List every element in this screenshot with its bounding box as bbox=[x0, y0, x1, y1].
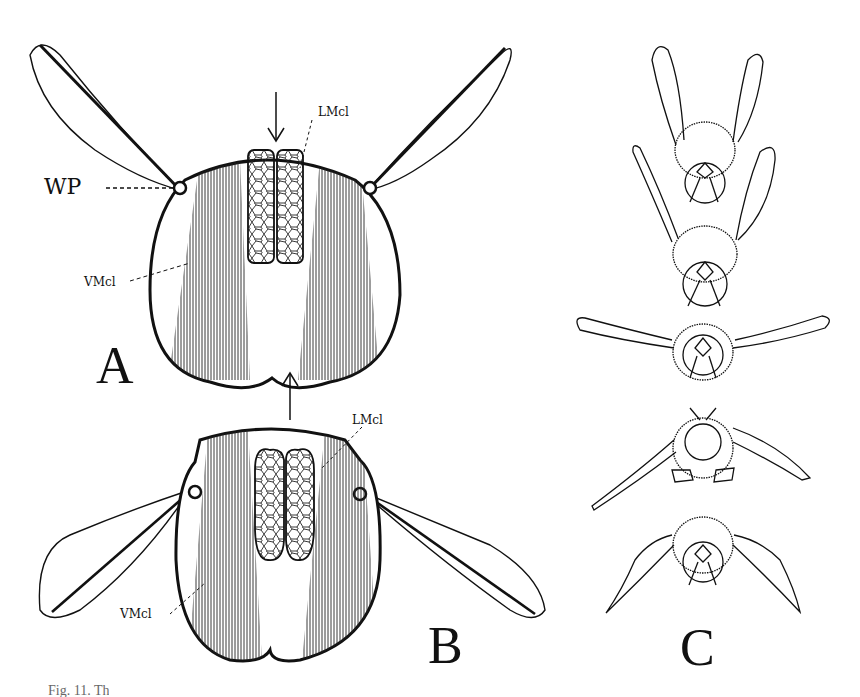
label-lmcl-a: LMcl bbox=[318, 106, 349, 118]
bee-pose-1 bbox=[652, 47, 763, 203]
panel-label-a: A bbox=[96, 340, 134, 392]
bee-pose-5 bbox=[606, 517, 800, 613]
panel-label-b: B bbox=[428, 620, 463, 672]
label-lmcl-b: LMcl bbox=[352, 414, 383, 426]
bee-pose-2 bbox=[633, 146, 775, 306]
bee-pose-3 bbox=[577, 316, 829, 380]
label-vmcl-b: VMcl bbox=[120, 608, 152, 620]
label-vmcl-a: VMcl bbox=[84, 276, 116, 288]
panel-label-c: C bbox=[680, 622, 715, 674]
bee-pose-4 bbox=[592, 408, 810, 510]
panel-b bbox=[39, 373, 545, 661]
label-wing-process-a: WP bbox=[44, 176, 81, 198]
figure-caption: Fig. 11. Th bbox=[48, 683, 109, 697]
panel-c bbox=[577, 47, 829, 613]
